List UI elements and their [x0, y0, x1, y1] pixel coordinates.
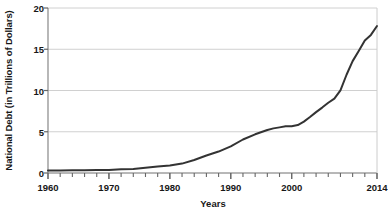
gridlines [48, 8, 377, 173]
x-tick-label: 2000 [281, 182, 302, 193]
x-tick-label: 2014 [366, 182, 387, 193]
x-axis-ticks [48, 173, 377, 179]
x-tick-label: 1990 [220, 182, 241, 193]
x-tick-label: 1970 [98, 182, 119, 193]
x-tick-label: 1960 [37, 182, 58, 193]
x-tick-label: 1980 [159, 182, 180, 193]
x-axis-title: Years [48, 198, 378, 209]
data-series-line [48, 26, 377, 171]
